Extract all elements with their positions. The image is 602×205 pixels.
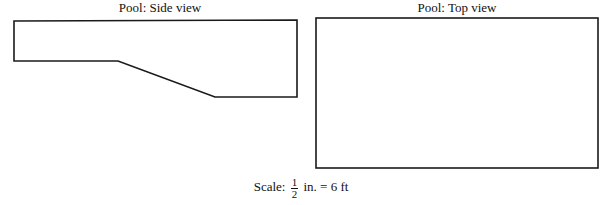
top-view-outline <box>316 18 598 168</box>
side-view-outline <box>14 20 297 97</box>
scale-suffix: in. = 6 ft <box>303 179 348 194</box>
pool-diagram <box>0 0 602 205</box>
scale-note: Scale: 1 2 in. = 6 ft <box>0 177 602 200</box>
scale-label: Scale: <box>254 179 286 194</box>
scale-fraction: 1 2 <box>291 177 299 200</box>
fraction-denominator: 2 <box>291 189 299 200</box>
